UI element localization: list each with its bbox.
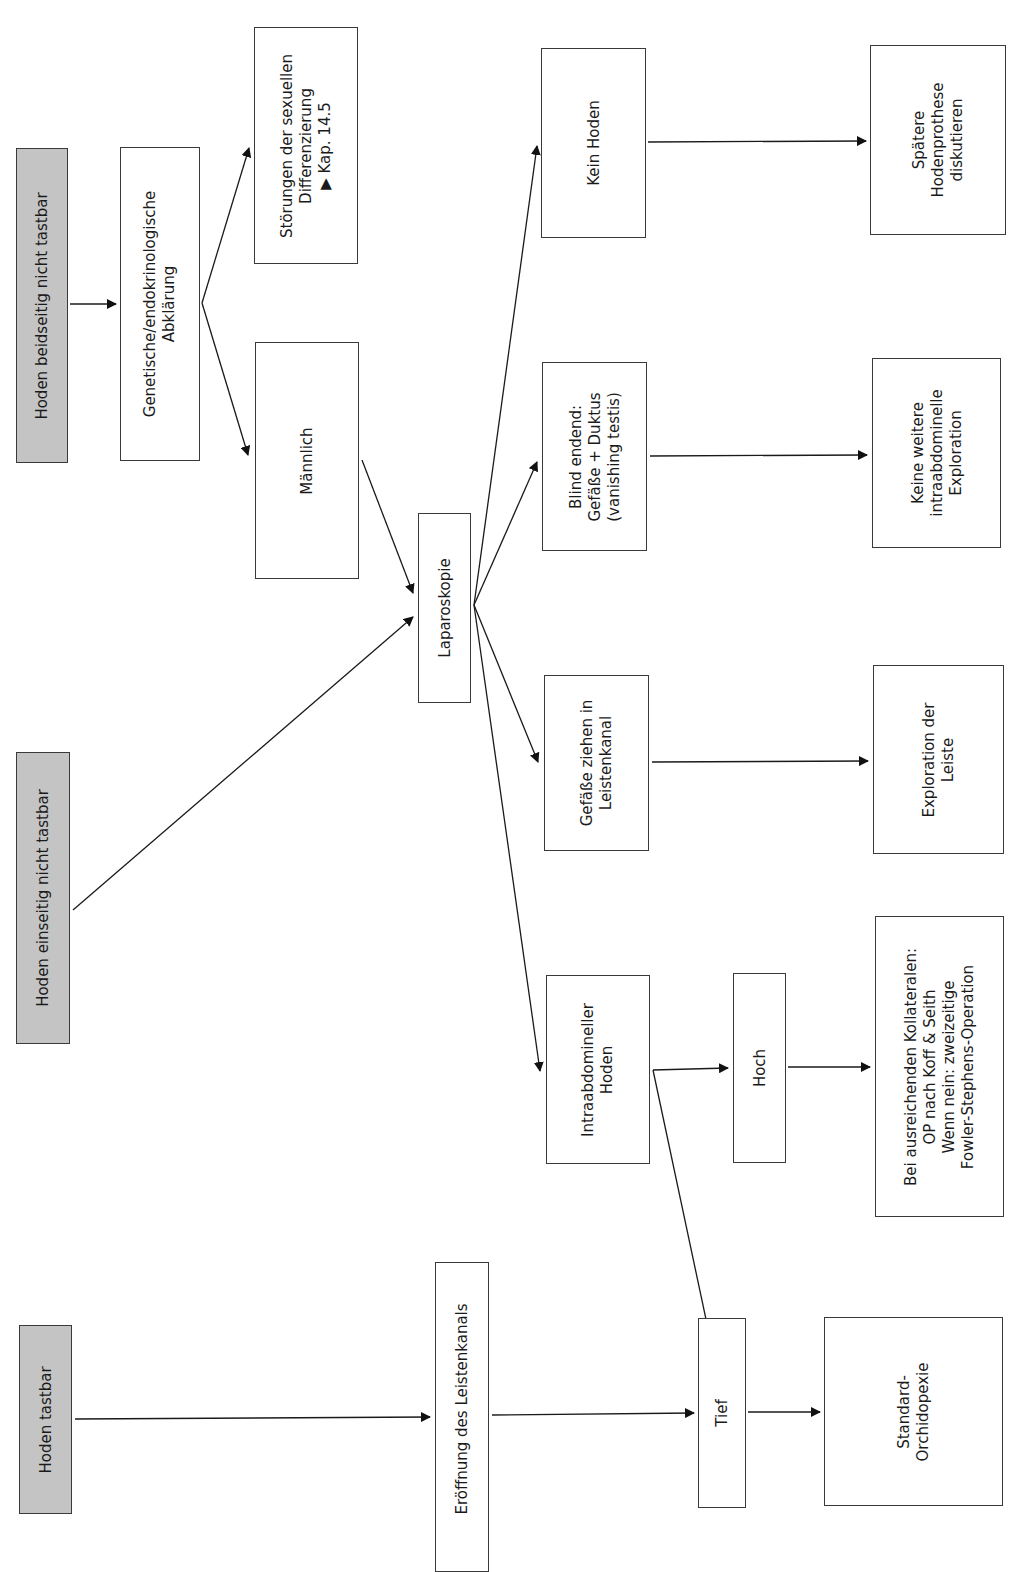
- edge-laparoskopie-kein-hoden: [474, 146, 537, 605]
- node-label: Spätere: [910, 83, 929, 198]
- node-intraabdomineller-hoden: Intraabdomineller Hoden: [546, 975, 650, 1164]
- node-exploration-der-leiste: Exploration der Leiste: [873, 665, 1004, 854]
- node-spaetere-hodenprothese: Spätere Hodenprothese diskutieren: [870, 45, 1006, 235]
- node-label: Blind endend:: [566, 392, 585, 522]
- node-tief: Tief: [698, 1318, 746, 1508]
- node-label: Hoden tastbar: [36, 1366, 55, 1473]
- node-hoden-tastbar: Hoden tastbar: [19, 1325, 72, 1514]
- node-label: Laparoskopie: [435, 558, 454, 657]
- node-hoden-beidseitig-nicht-tastbar: Hoden beidseitig nicht tastbar: [16, 148, 68, 463]
- node-label: Hodenprothese: [929, 83, 948, 198]
- node-maennlich: Männlich: [255, 342, 359, 579]
- node-label: Exploration der: [920, 702, 939, 817]
- edge-blind-keine-weitere: [650, 455, 867, 456]
- node-label: (vanishing testis): [604, 392, 623, 522]
- node-genetische-abklaerung: Genetische/endokrinologische Abklärung: [120, 147, 200, 461]
- node-label: Tief: [713, 1399, 732, 1426]
- edge-genetisch-maennlich: [202, 303, 248, 455]
- node-stoerungen-sexuelle-differenzierung: Störungen der sexuellen Differenzierung …: [254, 27, 358, 264]
- edge-intraabdominell-hoch: [653, 1068, 728, 1070]
- chapter-reference-link[interactable]: ▶ Kap. 14.5: [316, 54, 335, 238]
- node-label: Standard-: [895, 1362, 914, 1461]
- node-label: Keine weitere: [908, 389, 927, 516]
- node-standard-orchidopexie: Standard- Orchidopexie: [824, 1317, 1003, 1506]
- edge-laparoskopie-gefaesse: [474, 605, 538, 762]
- node-label: Genetische/endokrinologische: [141, 191, 160, 417]
- node-label: Kein Hoden: [584, 100, 603, 185]
- node-kein-hoden: Kein Hoden: [541, 48, 646, 238]
- node-label: Hoden: [598, 1003, 617, 1137]
- edge-tastbar-eroeffnung: [75, 1417, 430, 1419]
- node-label: Gefäße ziehen in: [578, 700, 597, 827]
- node-laparoskopie: Laparoskopie: [418, 513, 471, 703]
- edge-gefaesse-exploration: [652, 761, 868, 762]
- node-label: Abklärung: [160, 191, 179, 417]
- node-gefaesse-leistenkanal: Gefäße ziehen in Leistenkanal: [544, 675, 649, 851]
- node-label: Differenzierung: [297, 54, 316, 238]
- node-label: Leistenkanal: [597, 700, 616, 827]
- node-label: Fowler-Stephens-Operation: [959, 948, 978, 1186]
- node-label: Hoden beidseitig nicht tastbar: [33, 192, 52, 419]
- node-label: Störungen der sexuellen: [278, 54, 297, 238]
- node-label: Hoch: [750, 1049, 769, 1087]
- node-label: Hoden einseitig nicht tastbar: [34, 789, 53, 1007]
- node-label: intraabdominelle: [927, 389, 946, 516]
- node-label: Intraabdomineller: [579, 1003, 598, 1137]
- node-hoch: Hoch: [733, 973, 786, 1163]
- edge-kein-hoden-prothese: [648, 141, 866, 142]
- node-label: Orchidopexie: [914, 1362, 933, 1461]
- node-label: Bei ausreichenden Kollateralen:: [902, 948, 921, 1186]
- node-label: OP nach Koff & Seith: [921, 948, 940, 1186]
- node-label: Gefäße + Duktus: [585, 392, 604, 522]
- edge-maennlich-laparoskopie: [362, 460, 413, 593]
- node-label: Leiste: [939, 702, 958, 817]
- edge-laparoskopie-intraabdominell: [474, 605, 540, 1071]
- node-kollateralen-fowler-stephens: Bei ausreichenden Kollateralen: OP nach …: [875, 916, 1004, 1217]
- node-label: diskutieren: [948, 83, 967, 198]
- node-label: Wenn nein: zweizeitige: [940, 948, 959, 1186]
- node-eroeffnung-leistenkanal: Eröffnung des Leistenkanals: [435, 1262, 489, 1572]
- node-label: Eröffnung des Leistenkanals: [453, 1303, 472, 1514]
- edge-genetisch-stoerungen: [202, 148, 249, 303]
- node-hoden-einseitig-nicht-tastbar: Hoden einseitig nicht tastbar: [16, 752, 70, 1044]
- edge-eroeffnung-tief: [492, 1413, 694, 1415]
- node-keine-weitere-exploration: Keine weitere intraabdominelle Explorati…: [872, 358, 1001, 548]
- node-label: Männlich: [298, 427, 317, 494]
- node-label: Exploration: [946, 389, 965, 516]
- edge-einseitig-laparoskopie: [73, 617, 413, 910]
- node-blind-endend: Blind endend: Gefäße + Duktus (vanishing…: [542, 362, 647, 551]
